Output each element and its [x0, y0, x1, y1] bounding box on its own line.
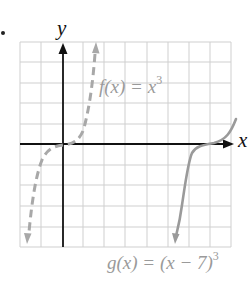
curve-g-bottom-arrow-icon [172, 233, 180, 244]
curve-f-label: f(x) = x3 [99, 77, 162, 96]
curve-g-label-exponent: 3 [213, 249, 219, 263]
curve-f-bottom-arrow-icon [24, 233, 32, 244]
curve-f-top-arrow-icon [92, 42, 100, 54]
curve-f-label-exponent: 3 [156, 73, 162, 87]
y-axis-arrow-icon [59, 43, 68, 54]
curve-f-label-text: f(x) = x [99, 76, 156, 97]
x-axis-arrow-icon [223, 140, 234, 149]
x-axis [20, 140, 234, 149]
x-axis-label: x [238, 130, 247, 151]
coordinate-plane [0, 0, 252, 282]
curve-g-label-text: g(x) = (x − 7) [107, 252, 213, 273]
curve-g [172, 119, 236, 244]
curve-g-label: g(x) = (x − 7)3 [107, 253, 219, 272]
curve-f [24, 42, 100, 244]
y-axis-label: y [57, 18, 66, 39]
